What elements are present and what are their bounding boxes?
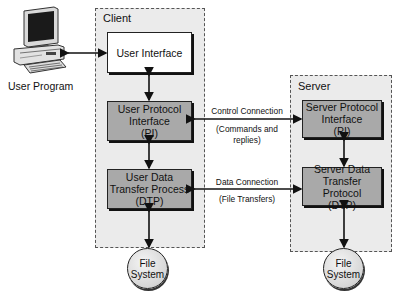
data-connection-sublabel: (File Transfers) bbox=[203, 193, 291, 204]
control-connection-sublabel: (Commands and replies) bbox=[203, 123, 291, 145]
data-connection-label: Data Connection bbox=[203, 176, 291, 187]
control-connection-label: Control Connection bbox=[203, 105, 291, 116]
connector-arrows bbox=[0, 0, 405, 294]
